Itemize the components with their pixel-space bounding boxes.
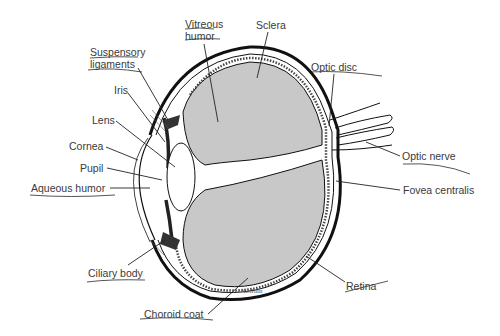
label-suspensory-ligaments-2: ligaments <box>90 58 135 70</box>
artist-signature: Goldin <box>243 287 262 295</box>
optic-nerve <box>330 103 394 150</box>
label-optic-nerve: Optic nerve <box>402 150 456 162</box>
label-cornea: Cornea <box>69 140 103 152</box>
label-vitreous-humor-1: Vitreous <box>185 18 223 30</box>
lens <box>167 143 195 211</box>
label-choroid-coat: Choroid coat <box>144 308 204 320</box>
label-sclera: Sclera <box>256 19 286 31</box>
label-aqueous-humor: Aqueous humor <box>31 182 105 194</box>
label-iris: Iris <box>114 84 128 96</box>
label-optic-disc: Optic disc <box>311 61 357 73</box>
vitreous-lower <box>183 160 325 287</box>
label-retina: Retina <box>346 280 376 292</box>
eye-diagram <box>0 0 500 336</box>
label-fovea-centralis: Fovea centralis <box>403 184 474 196</box>
cornea <box>139 135 155 240</box>
label-ciliary-body: Ciliary body <box>88 267 143 279</box>
label-vitreous-humor-2: humor <box>185 30 215 42</box>
label-pupil: Pupil <box>80 162 103 174</box>
label-lens: Lens <box>92 114 115 126</box>
label-suspensory-ligaments-1: Suspensory <box>90 46 145 58</box>
